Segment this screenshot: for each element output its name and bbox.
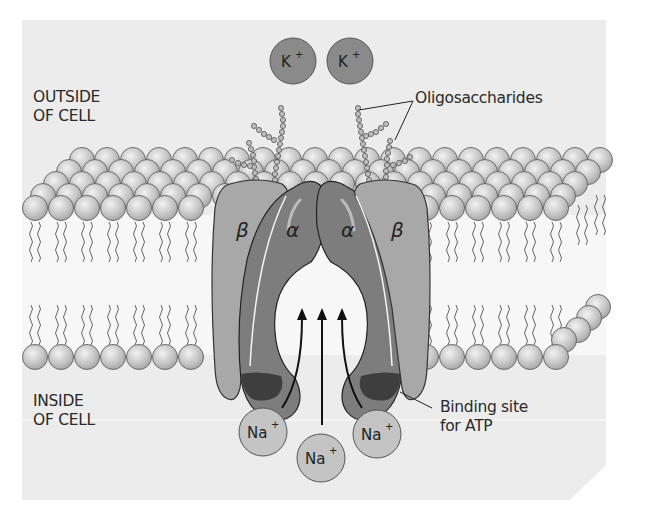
alpha-label-left: α xyxy=(286,218,299,242)
svg-text:+: + xyxy=(385,421,393,432)
atp-binding-site-label: Binding site for ATP xyxy=(440,398,528,436)
inside-of-cell-label: INSIDE OF CELL xyxy=(33,392,95,430)
outside-label-line1: OUTSIDE xyxy=(33,88,100,107)
sodium-ion-2: Na + xyxy=(297,434,345,482)
svg-text:+: + xyxy=(352,49,360,60)
svg-text:Na: Na xyxy=(247,424,267,442)
svg-text:Na: Na xyxy=(361,426,381,444)
diagram-canvas: β α α β K + K + Na + Na + xyxy=(0,0,661,516)
potassium-ion-1: K + xyxy=(270,38,316,84)
alpha-label-right: α xyxy=(341,218,354,242)
na-k-pump-diagram: β α α β K + K + Na + Na + xyxy=(0,0,661,516)
binding-label-line1: Binding site xyxy=(440,398,528,417)
outside-of-cell-label: OUTSIDE OF CELL xyxy=(33,88,100,126)
svg-text:K: K xyxy=(281,53,292,71)
outside-label-line2: OF CELL xyxy=(33,107,100,126)
svg-text:Na: Na xyxy=(305,450,325,468)
potassium-ion-2: K + xyxy=(327,38,373,84)
svg-text:K: K xyxy=(338,53,349,71)
inside-label-line1: INSIDE xyxy=(33,392,95,411)
sodium-ion-3: Na + xyxy=(353,410,401,458)
svg-text:+: + xyxy=(295,49,303,60)
inside-label-line2: OF CELL xyxy=(33,411,95,430)
beta-label-left: β xyxy=(235,218,249,242)
svg-text:+: + xyxy=(329,445,337,456)
sodium-ion-1: Na + xyxy=(239,408,287,456)
oligosaccharides-label: Oligosaccharides xyxy=(415,89,542,108)
binding-label-line2: for ATP xyxy=(440,417,528,436)
svg-text:+: + xyxy=(271,419,279,430)
beta-label-right: β xyxy=(390,218,404,242)
